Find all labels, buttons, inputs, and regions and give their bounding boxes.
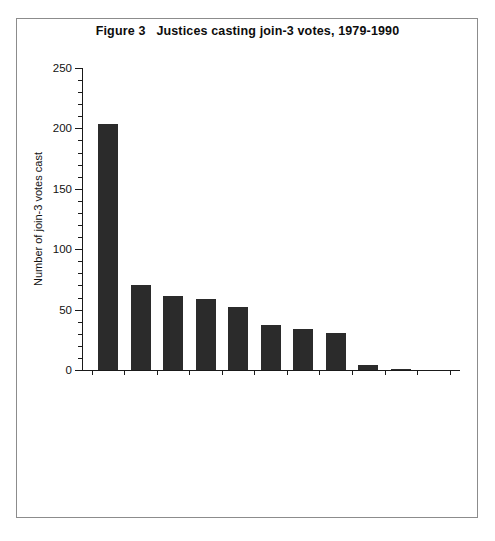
bar (228, 307, 248, 370)
y-axis-minor-tick (78, 285, 82, 286)
y-axis-minor-tick (78, 153, 82, 154)
bar (261, 325, 281, 370)
y-axis-minor-tick (78, 358, 82, 359)
y-axis-minor-tick (78, 201, 82, 202)
y-axis-minor-tick (78, 225, 82, 226)
y-axis-major-tick (75, 310, 82, 311)
y-axis-major-tick (75, 128, 82, 129)
y-axis-minor-tick (78, 346, 82, 347)
plot-area: 050100150200250 (82, 68, 460, 370)
y-axis-minor-tick (78, 116, 82, 117)
y-axis-major-tick (75, 249, 82, 250)
y-axis-minor-tick (78, 298, 82, 299)
y-axis-tick-label: 100 (53, 243, 72, 255)
y-axis-minor-tick (78, 92, 82, 93)
y-axis-minor-tick (78, 104, 82, 105)
y-axis-minor-tick (78, 165, 82, 166)
bar (326, 333, 346, 370)
bar (163, 296, 183, 370)
y-axis-title-label: Number of join-3 votes cast (32, 152, 44, 286)
y-axis-major-tick (75, 189, 82, 190)
bar (293, 329, 313, 370)
x-axis-labels: Blackmun, 1979-1990O'Connor, 1981-1990Ma… (0, 370, 495, 500)
y-axis-tick-label: 150 (53, 183, 72, 195)
y-axis-minor-tick (78, 213, 82, 214)
y-axis-minor-tick (78, 261, 82, 262)
y-axis-minor-tick (78, 80, 82, 81)
bar (131, 285, 151, 370)
y-axis-tick-label: 200 (53, 122, 72, 134)
y-axis-minor-tick (78, 334, 82, 335)
y-axis-minor-tick (78, 237, 82, 238)
chart-title: Figure 3 Justices casting join-3 votes, … (0, 24, 495, 38)
y-axis-major-tick (75, 68, 82, 69)
y-axis-minor-tick (78, 322, 82, 323)
y-axis-minor-tick (78, 140, 82, 141)
bar (98, 124, 118, 370)
y-axis-minor-tick (78, 177, 82, 178)
y-axis-line (82, 68, 83, 370)
y-axis-tick-label: 250 (53, 62, 72, 74)
y-axis-tick-label: 50 (59, 304, 72, 316)
bar (196, 299, 216, 370)
y-axis-title: Number of join-3 votes cast (30, 68, 46, 370)
y-axis-minor-tick (78, 273, 82, 274)
